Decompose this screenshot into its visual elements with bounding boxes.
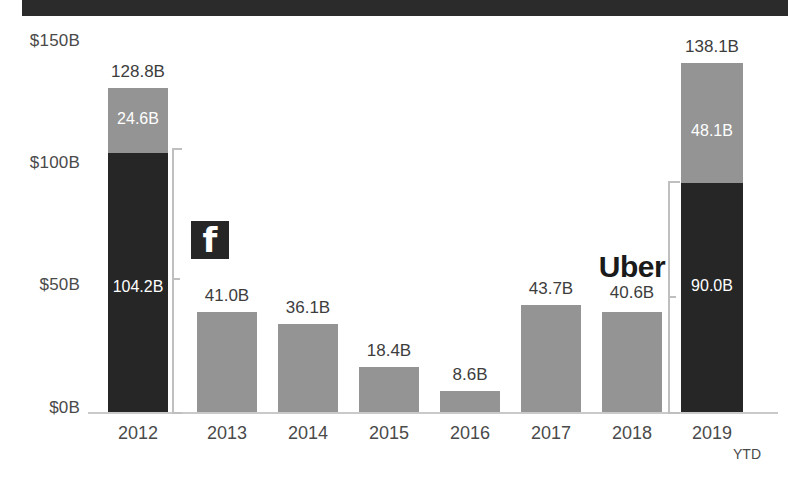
bar-2012-top-label: 24.6B bbox=[108, 110, 168, 128]
x-axis-label-2017: 2017 bbox=[521, 423, 581, 444]
y-axis-label-100: $100B bbox=[10, 153, 80, 173]
bar-2018-label: 40.6B bbox=[582, 283, 682, 303]
bar-2015-label: 18.4B bbox=[339, 341, 439, 361]
bar-2016-label: 8.6B bbox=[420, 365, 520, 385]
y-axis-label-0: $0B bbox=[10, 398, 80, 418]
x-axis-label-2016: 2016 bbox=[440, 423, 500, 444]
plot-area: $150B $100B $50B $0B 128.8B 24.6B 104.2B… bbox=[0, 0, 788, 483]
bar-2014-segment bbox=[278, 324, 338, 412]
bracket-2012 bbox=[172, 148, 182, 414]
bar-2015-segment bbox=[359, 367, 419, 412]
facebook-logo: f bbox=[191, 221, 229, 259]
bar-2019-top-label: 48.1B bbox=[681, 122, 743, 140]
y-axis-label-150: $150B bbox=[10, 31, 80, 51]
bar-2012-bottom-label: 104.2B bbox=[103, 278, 173, 296]
bar-2016-segment bbox=[440, 391, 500, 412]
chart-root: $150B $100B $50B $0B 128.8B 24.6B 104.2B… bbox=[0, 0, 788, 483]
uber-logo: Uber bbox=[582, 250, 682, 284]
bar-2019-total-label: 138.1B bbox=[662, 37, 762, 57]
x-axis-ytd-note: YTD bbox=[722, 446, 772, 462]
bracket-2019-nub bbox=[668, 296, 676, 298]
x-axis-label-2013: 2013 bbox=[197, 423, 257, 444]
x-axis-label-2015: 2015 bbox=[359, 423, 419, 444]
x-axis-label-2012: 2012 bbox=[108, 423, 168, 444]
bar-2013-segment bbox=[197, 312, 257, 412]
bracket-2019 bbox=[668, 181, 680, 414]
bar-2018-segment bbox=[602, 312, 662, 412]
bar-2014-label: 36.1B bbox=[258, 298, 358, 318]
bar-2019-bottom-label: 90.0B bbox=[681, 277, 743, 295]
facebook-f-icon: f bbox=[191, 221, 229, 259]
x-axis-label-2019: 2019 bbox=[681, 423, 743, 444]
x-axis-label-2018: 2018 bbox=[602, 423, 662, 444]
bar-2017-segment bbox=[521, 305, 581, 412]
bar-2012-total-label: 128.8B bbox=[88, 62, 188, 82]
y-axis-label-50: $50B bbox=[10, 275, 80, 295]
bar-2019-dark-segment bbox=[681, 183, 743, 412]
bracket-2012-nub bbox=[172, 278, 180, 280]
x-axis-label-2014: 2014 bbox=[278, 423, 338, 444]
